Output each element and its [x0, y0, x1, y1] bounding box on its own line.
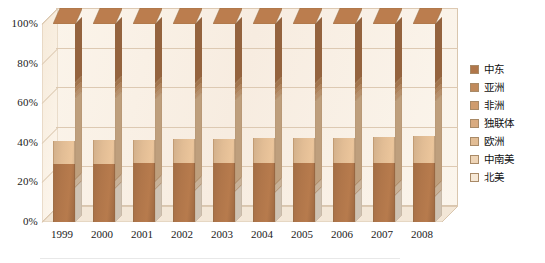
legend-item[interactable]: 中南美: [470, 150, 542, 168]
bar-top-face: [173, 8, 202, 24]
legend: 中东亚洲非洲独联体欧洲中南美北美: [470, 60, 542, 186]
legend-swatch: [470, 65, 479, 74]
bar-top-face: [213, 8, 242, 24]
bar-segment-side-face: [234, 163, 241, 222]
bar-top-face: [93, 8, 122, 24]
x-axis-tick-label: 2004: [242, 228, 282, 240]
legend-item[interactable]: 独联体: [470, 114, 542, 132]
bar-column[interactable]: [293, 24, 315, 222]
bar-column[interactable]: [53, 24, 75, 222]
bar-segment-side-face: [154, 163, 161, 222]
x-axis-tick-label: 2002: [162, 228, 202, 240]
legend-item[interactable]: 非洲: [470, 96, 542, 114]
legend-label: 中南美: [484, 154, 514, 165]
bar-column[interactable]: [253, 24, 275, 222]
bar-column[interactable]: [213, 24, 235, 222]
y-axis-tick-label: 20%: [17, 175, 38, 187]
bar-segment: [293, 163, 315, 222]
bar-segment-side-face: [434, 163, 441, 222]
bar-column[interactable]: [93, 24, 115, 222]
legend-item[interactable]: 欧洲: [470, 132, 542, 150]
legend-swatch: [470, 155, 479, 164]
x-axis: 1999200020012002200320042005200620072008: [42, 228, 458, 248]
bar-column[interactable]: [133, 24, 155, 222]
legend-swatch: [470, 83, 479, 92]
x-axis-tick-label: 2006: [322, 228, 362, 240]
bar-segment-side-face: [74, 164, 81, 222]
bar-segment: [53, 164, 75, 222]
bar-column[interactable]: [173, 24, 195, 222]
bar-segment: [133, 163, 155, 222]
bar-segment-side-face: [394, 163, 401, 222]
bar-segment: [253, 163, 275, 222]
plot-area: [42, 8, 458, 222]
legend-swatch: [470, 173, 479, 182]
bar-top-face: [333, 8, 362, 24]
x-axis-tick-label: 2000: [82, 228, 122, 240]
bar-segment-side-face: [354, 163, 361, 222]
legend-label: 亚洲: [484, 82, 504, 93]
bar-segment: [93, 164, 115, 222]
x-axis-tick-label: 2005: [282, 228, 322, 240]
y-axis-tick-label: 0%: [23, 215, 38, 227]
legend-item[interactable]: 亚洲: [470, 78, 542, 96]
bar-top-face: [413, 8, 442, 24]
stacked-column-chart: 0%20%40%60%80%100% 199920002001200220032…: [0, 0, 545, 263]
y-axis-tick-label: 100%: [12, 17, 38, 29]
bar-segment-side-face: [274, 163, 281, 222]
legend-swatch: [470, 137, 479, 146]
legend-label: 北美: [484, 172, 504, 183]
x-axis-tick-label: 2008: [402, 228, 442, 240]
bar-segment-side-face: [314, 163, 321, 222]
y-axis: 0%20%40%60%80%100%: [0, 0, 42, 240]
y-axis-tick-label: 80%: [17, 57, 38, 69]
bar-segment: [413, 163, 435, 222]
page-scan-line: [40, 258, 400, 259]
bar-segment: [333, 163, 355, 222]
y-axis-tick-label: 60%: [17, 96, 38, 108]
legend-item[interactable]: 中东: [470, 60, 542, 78]
legend-swatch: [470, 119, 479, 128]
bar-top-face: [253, 8, 282, 24]
x-axis-tick-label: 1999: [42, 228, 82, 240]
bar-top-face: [293, 8, 322, 24]
legend-label: 欧洲: [484, 136, 504, 147]
bar-segment-side-face: [194, 163, 201, 222]
x-axis-tick-label: 2007: [362, 228, 402, 240]
legend-swatch: [470, 101, 479, 110]
legend-label: 中东: [484, 64, 504, 75]
bar-top-face: [133, 8, 162, 24]
bar-column[interactable]: [333, 24, 355, 222]
y-axis-tick-label: 40%: [17, 136, 38, 148]
bar-column[interactable]: [373, 24, 395, 222]
bar-segment: [173, 163, 195, 222]
x-axis-tick-label: 2001: [122, 228, 162, 240]
legend-item[interactable]: 北美: [470, 168, 542, 186]
bar-top-face: [53, 8, 82, 24]
bar-segment: [213, 163, 235, 222]
legend-label: 独联体: [484, 118, 514, 129]
legend-label: 非洲: [484, 100, 504, 111]
bar-column[interactable]: [413, 24, 435, 222]
bar-top-face: [373, 8, 402, 24]
bar-segment: [373, 163, 395, 222]
x-axis-tick-label: 2003: [202, 228, 242, 240]
bar-segment-side-face: [114, 164, 121, 222]
